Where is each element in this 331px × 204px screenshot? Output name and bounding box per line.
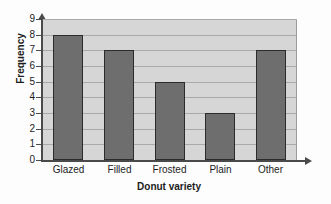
y-tick-mark [36,35,41,36]
x-tick-label: Plain [195,164,246,176]
y-tick-mark [36,160,41,161]
y-tick-label: 1 [22,139,35,149]
bar [155,82,185,160]
x-tick-label: Other [245,164,296,176]
y-tick-mark [36,97,41,98]
y-tick-label: 6 [22,61,35,71]
y-tick-mark [36,19,41,20]
x-axis-arrow-icon [305,157,312,165]
y-tick-mark [36,113,41,114]
y-tick-label: 0 [22,155,35,165]
y-tick-mark [36,82,41,83]
y-tick-label: 2 [22,124,35,134]
gridline [43,19,296,20]
bar [53,35,83,160]
bar [205,113,235,160]
bar-chart-figure: Frequency 0123456789 GlazedFilledFrosted… [0,0,331,204]
x-axis-title: Donut variety [42,181,296,192]
y-tick-label: 4 [22,92,35,102]
y-tick-mark [36,66,41,67]
y-tick-label: 7 [22,45,35,55]
y-tick-mark [36,144,41,145]
x-tick-label: Glazed [43,164,94,176]
y-tick-label: 9 [22,14,35,24]
y-tick-mark [36,50,41,51]
x-tick-label: Filled [94,164,145,176]
y-tick-mark [36,129,41,130]
bar [104,50,134,160]
x-axis-line [41,160,307,162]
x-tick-label: Frosted [144,164,195,176]
y-tick-label: 8 [22,30,35,40]
y-tick-label: 5 [22,77,35,87]
bar [256,50,286,160]
y-tick-label: 3 [22,108,35,118]
y-axis-line [41,19,43,162]
